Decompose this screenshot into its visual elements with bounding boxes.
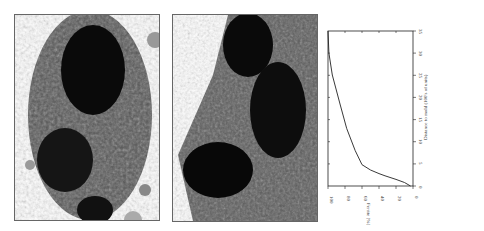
x-tick-100: 100 xyxy=(329,196,334,204)
x-axis-label: Ferrite [%] xyxy=(366,203,371,225)
x-tick-20: 20 xyxy=(397,196,402,202)
micrograph-middle-texture xyxy=(173,15,317,221)
micrograph-middle xyxy=(172,14,318,222)
y-tick-5: 5 xyxy=(418,162,423,165)
micrograph-left xyxy=(14,14,160,221)
ferrite-curve xyxy=(328,31,411,186)
y-tick-30: 30 xyxy=(418,51,423,57)
x-tick-80: 80 xyxy=(346,196,351,202)
x-tick-40: 40 xyxy=(380,196,385,202)
x-ticks xyxy=(328,31,413,189)
ferrite-distance-chart: 100 80 60 40 20 0 Ferrite [%] 0 5 10 15 … xyxy=(320,0,484,231)
chart-svg: 100 80 60 40 20 0 Ferrite [%] 0 5 10 15 … xyxy=(320,0,484,231)
micrograph-left-texture xyxy=(15,15,159,220)
x-tick-60: 60 xyxy=(363,196,368,202)
plot-frame xyxy=(328,31,413,186)
y-axis-label: Distance to mold (100's of units) xyxy=(423,74,428,140)
y-tick-0: 0 xyxy=(418,186,423,189)
y-tick-35: 35 xyxy=(418,29,423,35)
x-tick-0: 0 xyxy=(414,196,419,199)
x-tick-labels: 100 80 60 40 20 0 xyxy=(329,196,419,204)
